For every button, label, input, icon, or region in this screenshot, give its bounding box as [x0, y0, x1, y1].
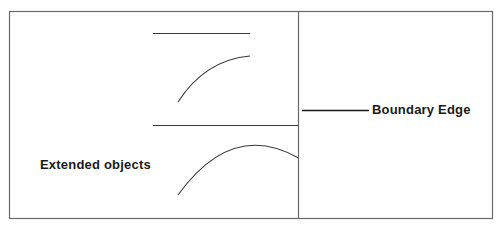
extended-objects-label: Extended objects [40, 157, 151, 172]
lower-arc [178, 145, 299, 195]
boundary-edge-label: Boundary Edge [372, 102, 471, 117]
upper-arc [178, 56, 250, 102]
